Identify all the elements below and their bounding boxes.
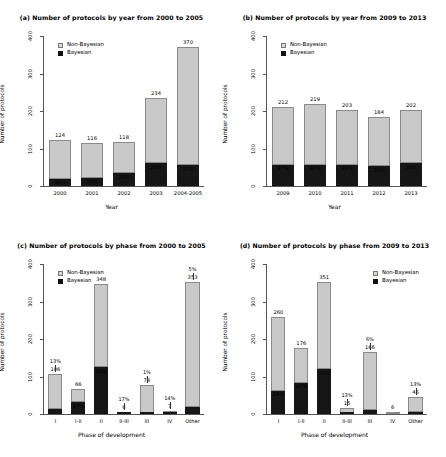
legend-label: Non-Bayesian bbox=[67, 269, 104, 275]
bar bbox=[340, 408, 354, 414]
legend-swatch-non-bayesian bbox=[373, 271, 378, 276]
panel-title: (b) Number of protocols by year from 200… bbox=[223, 14, 446, 21]
y-axis-tick bbox=[263, 377, 266, 378]
bar-segment-non-bayesian bbox=[272, 107, 293, 165]
bar-total-label: 260 bbox=[273, 309, 283, 315]
y-axis-tick bbox=[40, 264, 43, 265]
bar-total-label: 219 bbox=[310, 96, 320, 102]
bar bbox=[317, 282, 331, 414]
x-tick-label: II bbox=[100, 418, 103, 424]
panel-b: (b) Number of protocols by year from 200… bbox=[223, 0, 446, 228]
y-tick-label-text: 0 bbox=[27, 412, 33, 415]
x-axis-line bbox=[266, 414, 427, 415]
bar-total-label: 124 bbox=[55, 132, 65, 138]
y-axis-label: Number of protocols bbox=[222, 312, 228, 371]
leader-line bbox=[347, 399, 348, 406]
x-tick-label: 2000 bbox=[53, 190, 66, 196]
x-tick-label: 2013 bbox=[404, 190, 417, 196]
bar bbox=[271, 317, 285, 415]
x-axis-label: Year bbox=[223, 203, 446, 210]
y-axis-tick bbox=[40, 186, 43, 187]
x-tick-label: IV bbox=[390, 418, 395, 424]
bar-total-label: 66 bbox=[75, 381, 82, 387]
bar-percent-label: 14% bbox=[164, 395, 175, 401]
bar-segment-non-bayesian bbox=[271, 317, 285, 391]
bar bbox=[94, 284, 108, 415]
y-tick-label: 100 bbox=[22, 373, 38, 381]
y-tick-label: 400 bbox=[22, 260, 38, 268]
bar-percent-label: 26% bbox=[309, 165, 320, 171]
panel-title: (d) Number of protocols by phase from 20… bbox=[223, 242, 446, 249]
y-tick-label-text: 400 bbox=[250, 31, 256, 41]
x-tick-label: 2001 bbox=[85, 190, 98, 196]
panel-title: (c) Number of protocols by phase from 20… bbox=[0, 242, 223, 249]
y-tick-label: 100 bbox=[245, 373, 261, 381]
y-tick-label-text: 400 bbox=[27, 31, 33, 41]
x-tick-label: II-III bbox=[119, 418, 129, 424]
bar-total-label: 212 bbox=[278, 99, 288, 105]
y-tick-label: 400 bbox=[245, 260, 261, 268]
x-tick-label-row: 20002001200220032004-2005 bbox=[44, 190, 204, 200]
bar-segment-non-bayesian bbox=[304, 104, 325, 165]
x-tick-label: 2012 bbox=[372, 190, 385, 196]
legend-label: Bayesian bbox=[67, 277, 92, 283]
y-axis-label: Number of protocols bbox=[0, 312, 5, 371]
y-axis-tick bbox=[263, 264, 266, 265]
bar-segment-bayesian bbox=[317, 369, 331, 414]
bar-percent-label: 47% bbox=[296, 383, 307, 389]
bar-segment-non-bayesian bbox=[294, 348, 308, 383]
plot-area: 21227%21926%20328%18429%20230% bbox=[267, 36, 427, 186]
legend-label: Non-Bayesian bbox=[382, 269, 419, 275]
bar-percent-label: 13% bbox=[410, 381, 421, 387]
bar bbox=[304, 104, 325, 186]
y-tick-label: 300 bbox=[22, 70, 38, 78]
x-axis-label: Phase of development bbox=[223, 431, 446, 438]
bar-percent-label: 29% bbox=[118, 174, 129, 180]
bar-total-label: 348 bbox=[96, 276, 106, 282]
bar bbox=[386, 412, 400, 414]
y-axis-tick bbox=[263, 339, 266, 340]
y-tick-label-text: 0 bbox=[27, 184, 33, 187]
plot-area: 12416%11619%11829%23426%37015% bbox=[44, 36, 204, 186]
y-axis-tick bbox=[263, 186, 266, 187]
y-tick-label: 100 bbox=[245, 145, 261, 153]
bar bbox=[272, 107, 293, 187]
bar-percent-label: 16% bbox=[54, 179, 65, 185]
y-tick-label-text: 300 bbox=[27, 69, 33, 79]
y-tick-label-text: 400 bbox=[27, 259, 33, 269]
legend-swatch-bayesian bbox=[373, 279, 378, 284]
bar-segment-non-bayesian bbox=[400, 110, 421, 163]
bar-total-label: 118 bbox=[119, 134, 129, 140]
legend-swatch-bayesian bbox=[281, 51, 286, 56]
x-axis-line bbox=[266, 186, 427, 187]
bar-segment-non-bayesian bbox=[185, 282, 199, 408]
plot-area: 10613%6647%34836%617%781%714%3535% bbox=[44, 264, 204, 414]
bar-segment-bayesian bbox=[140, 412, 154, 414]
x-axis-line bbox=[43, 414, 204, 415]
bar-segment-non-bayesian bbox=[140, 385, 154, 414]
y-axis-label: Number of protocols bbox=[0, 84, 5, 143]
bar-percent-label: 29% bbox=[373, 167, 384, 173]
bar-percent-label: 26% bbox=[150, 164, 161, 170]
bar-segment-bayesian bbox=[94, 367, 108, 414]
y-tick-label-text: 200 bbox=[250, 106, 256, 116]
x-axis-label: Year bbox=[0, 203, 223, 210]
plot-area: 26024%17647%35134%1513%1666%64613% bbox=[267, 264, 427, 414]
bar-total-label: 203 bbox=[342, 102, 352, 108]
legend-label: Bayesian bbox=[290, 49, 315, 55]
bar-total-label: 176 bbox=[296, 340, 306, 346]
bar-percent-label: 19% bbox=[86, 178, 97, 184]
leader-line bbox=[147, 376, 148, 383]
bar-segment-non-bayesian bbox=[317, 282, 331, 369]
bar bbox=[368, 117, 389, 186]
legend-swatch-non-bayesian bbox=[58, 271, 63, 276]
x-axis-label: Phase of development bbox=[0, 431, 223, 438]
y-tick-label-text: 300 bbox=[250, 69, 256, 79]
panel-title: (a) Number of protocols by year from 200… bbox=[0, 14, 223, 21]
bar bbox=[336, 110, 357, 186]
legend-label: Bayesian bbox=[382, 277, 407, 283]
x-tick-label: I-II bbox=[298, 418, 304, 424]
bar bbox=[363, 352, 377, 414]
bar-segment-non-bayesian bbox=[81, 143, 102, 178]
y-tick-label-text: 0 bbox=[250, 184, 256, 187]
